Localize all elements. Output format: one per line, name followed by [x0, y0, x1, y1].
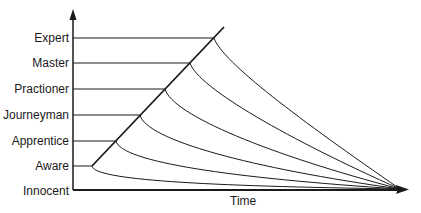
decay-curve-master — [190, 63, 400, 189]
learning-diagonal — [92, 27, 224, 166]
decay-curves — [92, 38, 400, 189]
level-label-aware: Aware — [35, 160, 69, 172]
level-label-journeyman: Journeyman — [3, 109, 69, 121]
level-label-practioner: Practioner — [14, 83, 69, 95]
level-label-apprentice: Apprentice — [12, 135, 69, 147]
decay-curve-apprentice — [116, 141, 400, 189]
level-label-expert: Expert — [34, 32, 69, 44]
decay-curve-expert — [214, 38, 400, 189]
y-axis-arrow-icon — [70, 9, 77, 20]
x-axis-label: Time — [230, 195, 256, 207]
level-label-master: Master — [32, 57, 69, 69]
level-label-innocent: Innocent — [23, 185, 69, 197]
